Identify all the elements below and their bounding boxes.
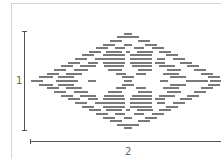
- motif-bar: [58, 84, 74, 86]
- motif-bar: [66, 73, 82, 75]
- motif-bar: [115, 113, 125, 115]
- motif-bar: [136, 73, 146, 75]
- motif-bar: [103, 62, 125, 64]
- motif-bar: [108, 91, 122, 93]
- height-dimension-cap-top: [22, 31, 27, 32]
- motif-bar: [163, 73, 179, 75]
- height-dimension-line: [24, 31, 25, 131]
- motif-bar: [157, 102, 165, 104]
- motif-bar: [95, 58, 103, 60]
- motif-bar: [201, 73, 213, 75]
- motif-bar: [159, 51, 171, 53]
- motif-bar: [110, 120, 122, 122]
- motif-bar: [130, 54, 152, 56]
- motif-bar: [145, 44, 157, 46]
- motif-bar: [96, 47, 108, 49]
- motif-bar: [61, 65, 73, 67]
- motif-bar: [117, 124, 139, 126]
- motif-bar: [187, 65, 199, 67]
- motif-bar: [95, 102, 103, 104]
- motif-bar: [167, 91, 181, 93]
- motif-bar: [58, 76, 74, 78]
- motif-bar: [194, 69, 206, 71]
- motif-bar: [74, 69, 88, 71]
- motif-bar: [80, 65, 96, 67]
- motif-bar: [104, 95, 124, 97]
- motif-bar: [180, 98, 192, 100]
- motif-bar: [186, 80, 208, 82]
- motif-bar: [136, 87, 146, 89]
- height-dimension-cap-bottom: [22, 130, 27, 131]
- motif-bar: [124, 117, 132, 119]
- motif-bar: [201, 87, 213, 89]
- motif-bar: [208, 84, 220, 86]
- motif-bar: [194, 91, 206, 93]
- motif-bar: [137, 109, 153, 111]
- motif-bar: [124, 80, 132, 82]
- motif-bar: [80, 95, 96, 97]
- motif-bar: [66, 87, 82, 89]
- motif-bar: [167, 69, 181, 71]
- motif-bar: [159, 109, 171, 111]
- motif-bar: [39, 84, 53, 86]
- motif-bar: [124, 33, 132, 35]
- motif-bar: [130, 62, 152, 64]
- width-dimension-cap-left: [30, 139, 31, 144]
- motif-bar: [155, 98, 165, 100]
- motif-bar: [137, 51, 153, 53]
- motif-bar: [116, 87, 126, 89]
- motif-bar: [157, 58, 165, 60]
- motif-bar: [126, 51, 130, 53]
- motif-bar: [130, 106, 152, 108]
- motif-bar: [160, 80, 168, 82]
- motif-bar: [39, 76, 53, 78]
- motif-bar: [166, 106, 178, 108]
- motif-bar: [170, 84, 186, 86]
- motif-bar: [88, 80, 96, 82]
- motif-bar: [89, 109, 101, 111]
- motif-bar: [138, 40, 150, 42]
- motif-bar: [54, 91, 66, 93]
- motif-bar: [47, 73, 59, 75]
- motif-bar: [155, 62, 165, 64]
- motif-bar: [104, 65, 124, 67]
- motif-bar: [56, 80, 78, 82]
- motif-bar: [124, 44, 132, 46]
- motif-bar: [134, 113, 144, 115]
- motif-bar: [126, 109, 130, 111]
- motif-bar: [132, 95, 152, 97]
- motif-bar: [103, 117, 115, 119]
- motif-bar: [159, 65, 175, 67]
- motif-bar: [134, 47, 144, 49]
- motif-bar: [103, 102, 125, 104]
- motif-bar: [173, 102, 185, 104]
- motif-bar: [138, 69, 152, 71]
- motif-bar: [187, 95, 199, 97]
- frame-top-border: [11, 3, 221, 4]
- motif-bar: [130, 102, 152, 104]
- motif-bar: [180, 62, 192, 64]
- motif-bar: [132, 65, 152, 67]
- motif-bar: [106, 109, 122, 111]
- motif-bar: [122, 84, 134, 86]
- motif-bar: [47, 87, 59, 89]
- motif-bar: [152, 47, 164, 49]
- motif-bar: [103, 44, 115, 46]
- motif-bar: [74, 91, 88, 93]
- motif-bar: [96, 113, 108, 115]
- motif-bar: [145, 117, 157, 119]
- width-label: 2: [125, 147, 131, 157]
- motif-bar: [75, 58, 87, 60]
- motif-bar: [170, 76, 186, 78]
- motif-bar: [130, 98, 152, 100]
- motif-bar: [130, 58, 152, 60]
- motif-bar: [103, 58, 125, 60]
- frame-left-border: [11, 3, 12, 159]
- motif-bar: [88, 98, 98, 100]
- motif-bar: [138, 91, 152, 93]
- motif-bar: [152, 113, 164, 115]
- motif-bar: [108, 69, 122, 71]
- height-label: 1: [16, 76, 22, 86]
- motif-bar: [173, 58, 185, 60]
- motif-bar: [138, 120, 150, 122]
